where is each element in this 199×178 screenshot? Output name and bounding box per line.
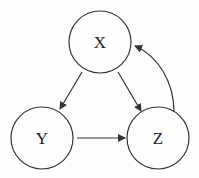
node-x-label: X <box>80 33 120 53</box>
edge-x-to-y <box>60 72 82 109</box>
diagram-graphic <box>0 0 199 178</box>
causal-diagram: X Y Z <box>0 0 199 178</box>
edge-z-to-x <box>135 46 174 112</box>
node-z-label: Z <box>138 129 178 149</box>
node-y-label: Y <box>22 129 62 149</box>
edge-x-to-z <box>118 72 141 111</box>
